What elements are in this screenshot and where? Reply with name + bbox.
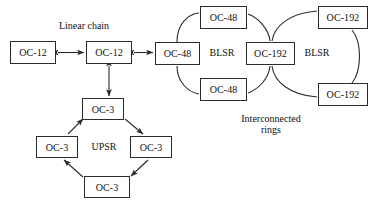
link-blsr2-shared-to-bottom bbox=[272, 66, 317, 97]
node-blsr1-top[interactable]: OC-48 bbox=[200, 6, 247, 29]
link-upsr-right-to-bottom bbox=[131, 160, 148, 176]
link-blsr2-top-to-bottom bbox=[352, 30, 360, 83]
label-interconnected-rings-line1: Interconnected bbox=[228, 113, 314, 124]
diagram-connections-layer bbox=[0, 0, 372, 211]
node-chain-mid[interactable]: OC-12 bbox=[86, 41, 132, 64]
node-blsr2-bottom[interactable]: OC-192 bbox=[318, 83, 368, 106]
link-blsr1-bottom-to-shared bbox=[248, 66, 270, 93]
node-upsr-right[interactable]: OC-3 bbox=[130, 136, 172, 158]
node-blsr-shared[interactable]: OC-192 bbox=[246, 42, 295, 65]
network-topology-diagram: OC-12 OC-12 OC-48 OC-48 OC-48 OC-192 OC-… bbox=[0, 0, 372, 211]
label-blsr-right: BLSR bbox=[297, 47, 337, 58]
node-blsr1-left[interactable]: OC-48 bbox=[155, 42, 200, 65]
label-upsr: UPSR bbox=[83, 141, 125, 152]
label-linear-chain: Linear chain bbox=[48, 20, 120, 31]
label-blsr-left: BLSR bbox=[202, 47, 242, 58]
link-upsr-left-to-top bbox=[68, 119, 83, 134]
node-upsr-bottom[interactable]: OC-3 bbox=[84, 176, 130, 198]
link-blsr1-left-to-bottom bbox=[177, 66, 199, 94]
link-blsr1-left-to-top bbox=[177, 13, 199, 42]
link-blsr1-top-to-shared bbox=[248, 14, 270, 41]
label-interconnected-rings-line2: rings bbox=[228, 124, 314, 135]
node-upsr-left[interactable]: OC-3 bbox=[36, 136, 78, 158]
node-blsr2-top[interactable]: OC-192 bbox=[318, 6, 368, 29]
node-blsr1-bottom[interactable]: OC-48 bbox=[200, 78, 247, 101]
node-chain-left[interactable]: OC-12 bbox=[10, 41, 56, 64]
link-upsr-bottom-to-left bbox=[64, 160, 83, 177]
link-upsr-top-to-right bbox=[125, 119, 143, 134]
node-upsr-top[interactable]: OC-3 bbox=[82, 98, 124, 120]
link-blsr2-shared-to-top bbox=[272, 11, 317, 41]
